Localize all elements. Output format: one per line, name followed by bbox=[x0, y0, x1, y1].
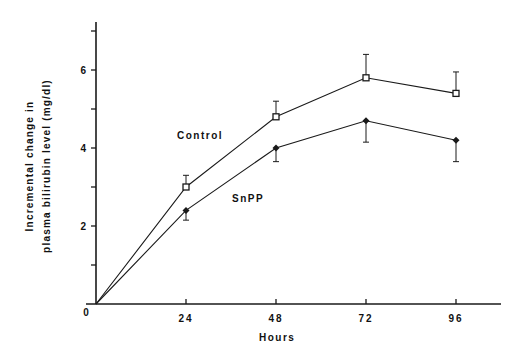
series-label-snpp: SnPP bbox=[232, 193, 264, 204]
marker-open-square bbox=[363, 75, 369, 81]
y-tick-label: 2 bbox=[80, 221, 86, 232]
marker-filled-diamond bbox=[273, 145, 280, 152]
x-tick-label: 96 bbox=[448, 313, 463, 324]
y-axis-label-line1: Incremental change in bbox=[21, 79, 38, 253]
series-label-control: Control bbox=[177, 130, 223, 141]
x-tick-label: 72 bbox=[358, 313, 373, 324]
marker-filled-diamond bbox=[453, 137, 460, 144]
chart-canvas: 246024487296 bbox=[0, 0, 527, 364]
marker-open-square bbox=[183, 184, 189, 190]
marker-open-square bbox=[273, 114, 279, 120]
marker-open-square bbox=[453, 90, 459, 96]
x-tick-label: 24 bbox=[178, 313, 193, 324]
y-tick-label: 4 bbox=[80, 143, 86, 154]
marker-filled-diamond bbox=[363, 117, 370, 124]
origin-label: 0 bbox=[83, 307, 89, 318]
y-axis-label: Incremental change in plasma bilirubin l… bbox=[21, 79, 55, 253]
x-axis-label: Hours bbox=[259, 332, 295, 343]
y-axis-label-line2: plasma bilirubin level (mg/dl) bbox=[38, 79, 55, 253]
y-tick-label: 6 bbox=[80, 65, 86, 76]
x-tick-label: 48 bbox=[268, 313, 283, 324]
